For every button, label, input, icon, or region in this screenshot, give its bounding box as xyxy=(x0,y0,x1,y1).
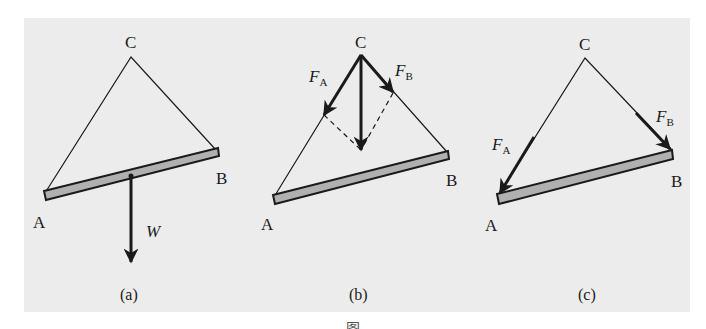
beam xyxy=(497,150,673,204)
force-label-fb: FB xyxy=(655,107,674,128)
point-label-a: A xyxy=(261,215,274,234)
point-label-a: A xyxy=(33,213,46,232)
statics-diagram: C A B W (a) C A B FA FB (b) C A B FA xyxy=(0,0,706,329)
point-label-c: C xyxy=(125,33,136,52)
point-label-b: B xyxy=(216,169,227,188)
figure-caption-cropped: 图 xyxy=(0,318,706,329)
point-label-c: C xyxy=(355,33,366,52)
panel-caption-a: (a) xyxy=(120,286,138,304)
force-arrow-fa xyxy=(324,55,361,115)
parallelogram-dashed-line xyxy=(324,115,361,150)
beam xyxy=(273,151,449,204)
panel-a: C A B W (a) xyxy=(33,33,227,304)
point-label-b: B xyxy=(446,171,457,190)
point-label-a: A xyxy=(485,216,498,235)
force-label-fa: FA xyxy=(491,135,510,156)
force-arrow-fb xyxy=(361,55,393,92)
panel-caption-b: (b) xyxy=(349,286,368,304)
panel-c: C A B FA FB (c) xyxy=(485,35,682,304)
force-label-fb: FB xyxy=(394,61,413,82)
force-label-fa: FA xyxy=(308,67,327,88)
point-label-c: C xyxy=(579,35,590,54)
weight-label: W xyxy=(146,222,162,241)
panel-caption-c: (c) xyxy=(578,286,596,304)
parallelogram-dashed-line xyxy=(361,93,393,150)
panel-b: C A B FA FB (b) xyxy=(261,33,457,304)
point-label-b: B xyxy=(671,172,682,191)
